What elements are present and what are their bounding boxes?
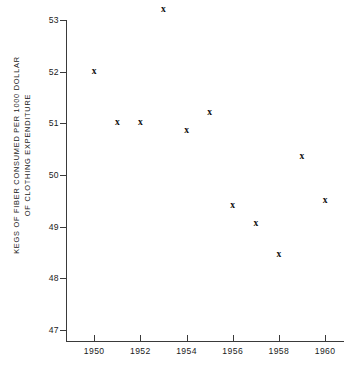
- x-axis-tick: [325, 335, 326, 342]
- y-axis-tick-label: 48: [35, 273, 59, 283]
- data-point-marker: x: [300, 152, 305, 162]
- y-axis-tick: [60, 330, 67, 331]
- x-axis-tick: [233, 335, 234, 342]
- y-axis-tick-label: 52: [35, 67, 59, 77]
- x-axis-tick-label: 1954: [176, 346, 197, 356]
- x-axis-tick: [187, 335, 188, 342]
- y-axis-tick-label: 47: [35, 325, 59, 335]
- y-axis-tick: [60, 123, 67, 124]
- y-axis-line: [66, 20, 67, 341]
- data-point-marker: x: [138, 119, 143, 129]
- y-axis-tick-label: 49: [35, 222, 59, 232]
- x-axis-tick: [140, 335, 141, 342]
- y-axis-tick-label: 51: [35, 118, 59, 128]
- data-point-marker: x: [92, 67, 97, 77]
- y-axis-tick: [60, 72, 67, 73]
- y-axis-tick: [60, 175, 67, 176]
- x-axis-tick-label: 1960: [315, 346, 336, 356]
- y-axis-tick: [60, 227, 67, 228]
- x-axis-tick-label: 1956: [222, 346, 243, 356]
- data-point-marker: x: [323, 196, 328, 206]
- x-axis-tick-label: 1950: [84, 346, 105, 356]
- data-point-marker: x: [184, 126, 189, 136]
- y-axis-tick-label: 53: [35, 15, 59, 25]
- y-axis-tick: [60, 278, 67, 279]
- x-axis-line: [66, 341, 344, 342]
- y-axis-title-line-2: OF CLOTHING EXPENDITURE: [22, 56, 33, 254]
- x-axis-tick: [94, 335, 95, 342]
- y-axis-title-line-1: KEGS OF FIBER CONSUMED PER 1000 DOLLAR: [12, 56, 21, 254]
- data-point-marker: x: [161, 5, 166, 15]
- y-axis-tick-label: 50: [35, 170, 59, 180]
- y-axis-title: KEGS OF FIBER CONSUMED PER 1000 DOLLAR O…: [2, 0, 42, 310]
- y-axis-tick: [60, 20, 67, 21]
- data-point-marker: x: [115, 119, 120, 129]
- data-point-marker: x: [253, 219, 258, 229]
- data-point-marker: x: [277, 250, 282, 260]
- data-point-marker: x: [207, 108, 212, 118]
- x-axis-tick-label: 1952: [130, 346, 151, 356]
- scatter-chart: KEGS OF FIBER CONSUMED PER 1000 DOLLAR O…: [0, 0, 350, 369]
- x-axis-tick: [279, 335, 280, 342]
- data-point-marker: x: [230, 201, 235, 211]
- x-axis-tick-label: 1958: [269, 346, 290, 356]
